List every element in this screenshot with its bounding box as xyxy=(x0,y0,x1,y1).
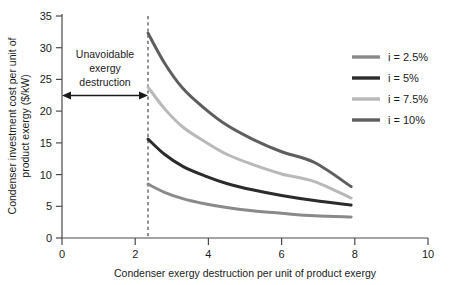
x-tick-label: 4 xyxy=(205,248,211,260)
legend-label: i = 7.5% xyxy=(388,93,428,105)
y-axis-tick-labels: 0 5 10 15 20 25 30 35 xyxy=(40,10,52,244)
series-line-i-5 xyxy=(148,139,351,205)
y-axis-ticks xyxy=(56,16,62,238)
x-axis-tick-labels: 0 2 4 6 8 10 xyxy=(59,248,434,260)
x-tick-label: 10 xyxy=(422,248,434,260)
y-axis-title-line1: Condenser investment cost per unit of xyxy=(6,38,18,215)
annotation-line-2: exergy xyxy=(89,62,121,74)
legend-item-0[interactable]: i = 2.5% xyxy=(352,51,428,63)
series-group xyxy=(148,33,351,217)
y-axis-title-line2: product exergy ($/kW) xyxy=(19,74,31,177)
series-line-i-7-5 xyxy=(148,87,351,198)
x-axis-ticks xyxy=(62,238,428,245)
y-tick-label: 35 xyxy=(40,10,52,22)
y-tick-label: 20 xyxy=(40,105,52,117)
x-tick-label: 2 xyxy=(132,248,138,260)
legend-item-1[interactable]: i = 5% xyxy=(352,72,419,84)
y-tick-label: 5 xyxy=(46,200,52,212)
unavoidable-annotation: Unavoidable exergy destruction xyxy=(76,48,135,88)
annotation-line-1: Unavoidable xyxy=(76,48,135,60)
x-axis-title: Condenser exergy destruction per unit of… xyxy=(114,267,377,279)
chart-figure: 0 5 10 15 20 25 30 35 0 2 4 6 8 10 xyxy=(0,0,459,285)
unavoidable-arrow xyxy=(62,92,148,100)
x-tick-label: 6 xyxy=(279,248,285,260)
legend: i = 2.5% i = 5% i = 7.5% i = 10% xyxy=(352,51,428,126)
y-tick-label: 0 xyxy=(46,232,52,244)
legend-label: i = 2.5% xyxy=(388,51,428,63)
x-tick-label: 8 xyxy=(352,248,358,260)
y-tick-label: 30 xyxy=(40,42,52,54)
legend-item-3[interactable]: i = 10% xyxy=(352,114,425,126)
y-tick-label: 25 xyxy=(40,73,52,85)
annotation-line-3: destruction xyxy=(79,76,131,88)
legend-label: i = 5% xyxy=(388,72,419,84)
legend-item-2[interactable]: i = 7.5% xyxy=(352,93,428,105)
chart-canvas: 0 5 10 15 20 25 30 35 0 2 4 6 8 10 xyxy=(0,0,459,285)
y-tick-label: 10 xyxy=(40,169,52,181)
y-tick-label: 15 xyxy=(40,137,52,149)
x-tick-label: 0 xyxy=(59,248,65,260)
legend-label: i = 10% xyxy=(388,114,425,126)
